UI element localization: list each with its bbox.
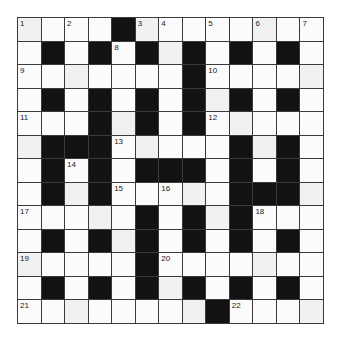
answer-cell[interactable] <box>300 253 323 276</box>
answer-cell[interactable] <box>253 159 276 182</box>
answer-cell[interactable] <box>18 230 41 253</box>
answer-cell[interactable] <box>159 89 182 112</box>
answer-cell[interactable] <box>65 183 88 206</box>
answer-cell[interactable]: 4 <box>159 18 182 41</box>
answer-cell[interactable] <box>206 159 229 182</box>
answer-cell[interactable] <box>18 277 41 300</box>
answer-cell[interactable] <box>159 300 182 323</box>
answer-cell[interactable] <box>277 112 300 135</box>
answer-cell[interactable] <box>206 183 229 206</box>
answer-cell[interactable] <box>277 206 300 229</box>
answer-cell[interactable]: 9 <box>18 65 41 88</box>
answer-cell[interactable] <box>42 300 65 323</box>
answer-cell[interactable] <box>159 206 182 229</box>
answer-cell[interactable]: 8 <box>112 42 135 65</box>
answer-cell[interactable] <box>300 183 323 206</box>
answer-cell[interactable] <box>18 89 41 112</box>
answer-cell[interactable] <box>253 277 276 300</box>
answer-cell[interactable] <box>253 253 276 276</box>
answer-cell[interactable] <box>206 277 229 300</box>
answer-cell[interactable] <box>277 253 300 276</box>
answer-cell[interactable] <box>183 253 206 276</box>
answer-cell[interactable] <box>300 136 323 159</box>
answer-cell[interactable] <box>183 18 206 41</box>
answer-cell[interactable] <box>300 300 323 323</box>
answer-cell[interactable]: 18 <box>253 206 276 229</box>
answer-cell[interactable] <box>65 112 88 135</box>
answer-cell[interactable]: 20 <box>159 253 182 276</box>
answer-cell[interactable] <box>18 159 41 182</box>
answer-cell[interactable] <box>89 65 112 88</box>
answer-cell[interactable] <box>300 42 323 65</box>
answer-cell[interactable] <box>65 277 88 300</box>
answer-cell[interactable] <box>42 65 65 88</box>
answer-cell[interactable]: 16 <box>159 183 182 206</box>
answer-cell[interactable]: 14 <box>65 159 88 182</box>
answer-cell[interactable] <box>253 65 276 88</box>
answer-cell[interactable] <box>136 65 159 88</box>
answer-cell[interactable] <box>112 206 135 229</box>
answer-cell[interactable] <box>159 277 182 300</box>
answer-cell[interactable] <box>300 277 323 300</box>
answer-cell[interactable]: 3 <box>136 18 159 41</box>
answer-cell[interactable] <box>206 42 229 65</box>
answer-cell[interactable] <box>112 159 135 182</box>
answer-cell[interactable] <box>183 183 206 206</box>
answer-cell[interactable] <box>253 300 276 323</box>
answer-cell[interactable]: 15 <box>112 183 135 206</box>
answer-cell[interactable] <box>300 159 323 182</box>
answer-cell[interactable] <box>253 136 276 159</box>
answer-cell[interactable]: 7 <box>300 18 323 41</box>
answer-cell[interactable] <box>65 42 88 65</box>
answer-cell[interactable] <box>277 300 300 323</box>
answer-cell[interactable] <box>18 183 41 206</box>
answer-cell[interactable] <box>112 300 135 323</box>
answer-cell[interactable] <box>206 230 229 253</box>
answer-cell[interactable] <box>300 112 323 135</box>
answer-cell[interactable] <box>206 206 229 229</box>
answer-cell[interactable] <box>42 112 65 135</box>
answer-cell[interactable] <box>42 206 65 229</box>
answer-cell[interactable] <box>65 89 88 112</box>
answer-cell[interactable] <box>300 89 323 112</box>
answer-cell[interactable] <box>65 253 88 276</box>
answer-cell[interactable] <box>206 136 229 159</box>
answer-cell[interactable] <box>65 300 88 323</box>
answer-cell[interactable] <box>230 65 253 88</box>
answer-cell[interactable] <box>112 230 135 253</box>
answer-cell[interactable] <box>230 253 253 276</box>
answer-cell[interactable] <box>65 65 88 88</box>
answer-cell[interactable]: 21 <box>18 300 41 323</box>
answer-cell[interactable] <box>89 206 112 229</box>
answer-cell[interactable] <box>112 65 135 88</box>
answer-cell[interactable] <box>159 65 182 88</box>
answer-cell[interactable]: 10 <box>206 65 229 88</box>
answer-cell[interactable] <box>159 112 182 135</box>
answer-cell[interactable] <box>42 253 65 276</box>
answer-cell[interactable]: 17 <box>18 206 41 229</box>
answer-cell[interactable] <box>253 42 276 65</box>
answer-cell[interactable] <box>300 206 323 229</box>
answer-cell[interactable] <box>300 65 323 88</box>
answer-cell[interactable] <box>18 136 41 159</box>
answer-cell[interactable] <box>159 136 182 159</box>
answer-cell[interactable] <box>136 183 159 206</box>
answer-cell[interactable] <box>253 230 276 253</box>
answer-cell[interactable] <box>89 300 112 323</box>
answer-cell[interactable] <box>300 230 323 253</box>
answer-cell[interactable] <box>136 300 159 323</box>
answer-cell[interactable] <box>253 89 276 112</box>
answer-cell[interactable] <box>112 253 135 276</box>
answer-cell[interactable]: 6 <box>253 18 276 41</box>
answer-cell[interactable]: 2 <box>65 18 88 41</box>
answer-cell[interactable]: 1 <box>18 18 41 41</box>
answer-cell[interactable] <box>277 65 300 88</box>
answer-cell[interactable] <box>65 206 88 229</box>
answer-cell[interactable] <box>230 18 253 41</box>
answer-cell[interactable] <box>112 277 135 300</box>
answer-cell[interactable] <box>112 89 135 112</box>
answer-cell[interactable] <box>112 112 135 135</box>
answer-cell[interactable]: 19 <box>18 253 41 276</box>
answer-cell[interactable] <box>253 112 276 135</box>
answer-cell[interactable] <box>230 112 253 135</box>
